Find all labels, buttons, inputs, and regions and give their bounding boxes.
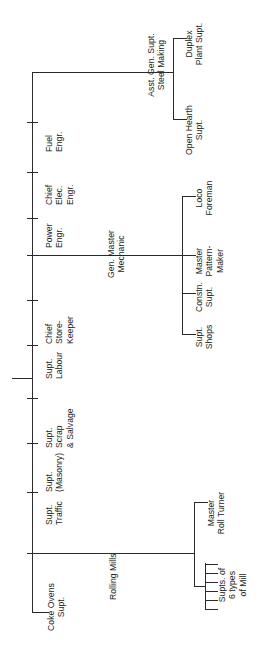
mill-comb-bar <box>205 563 206 609</box>
node-supts-six-mills: Supts. of 6 types of Mill <box>217 550 248 620</box>
branch-line-gen-master-mechanic <box>27 255 183 256</box>
node-supt-scrap-salvage: Supt. Scrap & Salvage <box>44 408 75 448</box>
main-spine <box>32 72 33 613</box>
node-supt-labour: Supt. Labour <box>44 352 65 379</box>
gen-master-mechanic-child-bar <box>182 196 183 334</box>
tick-supt-traffic <box>27 492 38 493</box>
steel-making-child-bar <box>173 38 174 119</box>
node-master-roll-turner: Master Roll Turner <box>206 470 227 556</box>
rolling-mills-child-bar <box>194 502 195 586</box>
branch-line-steel-making <box>32 72 151 73</box>
node-power-engr: Power Engr. <box>44 223 65 248</box>
tick-chief-elec-engr <box>27 172 38 173</box>
tick-supt-labour <box>27 345 38 346</box>
node-chief-store-keeper: Chief Store- Keeper <box>44 316 75 344</box>
node-fuel-engr: Fuel Engr. <box>44 132 65 152</box>
tick-power-engr <box>27 218 38 219</box>
tick-chief-store-keeper <box>27 300 38 301</box>
node-gen-master-mechanic: Gen. Master Mechanic <box>106 205 127 303</box>
node-chief-elec-engr: Chief Elec. Engr. <box>44 185 75 205</box>
node-coke-ovens-supt: Coke Ovens Supt. <box>46 559 67 655</box>
tick-supt-scrap-salvage <box>27 398 38 399</box>
org-chart: Asst. Gen. Supt. Steel Making Duplex Pla… <box>0 0 260 662</box>
node-duplex-plant: Duplex Plant Supt. <box>184 2 205 86</box>
node-supt-shops: Supt. Shops <box>194 302 215 372</box>
tick-fuel-engr <box>27 122 38 123</box>
tick-supt-masonry <box>27 443 38 444</box>
node-supt-traffic: Supt. Traffic <box>44 501 65 525</box>
node-supt-masonry: Supt. (Masonry) <box>44 453 65 492</box>
node-rolling-mills: Rolling Mills <box>108 554 118 601</box>
node-steel-making: Asst. Gen. Supt. Steel Making <box>146 10 167 120</box>
root-input-stub <box>12 378 33 379</box>
connector-steel-making-to-bar <box>151 72 174 73</box>
